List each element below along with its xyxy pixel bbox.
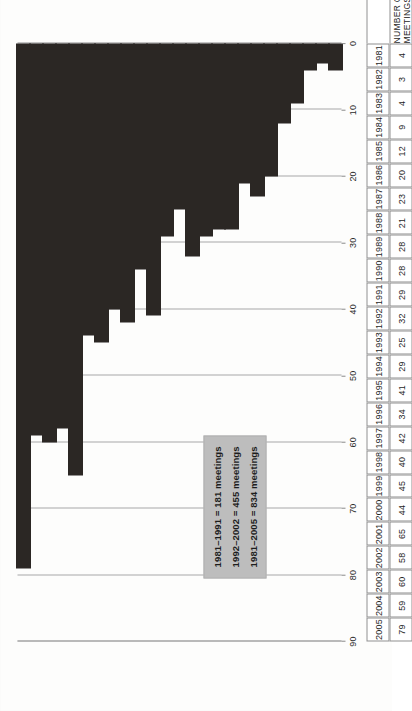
tick-mark (341, 375, 345, 376)
tick-mark (341, 508, 345, 509)
table-cell-year-1985: 1985 (366, 139, 389, 163)
table-cell-year-1997: 1997 (366, 426, 389, 450)
table-cell-year-1987: 1987 (366, 187, 389, 211)
table-cell-value-1989: 28 (389, 234, 412, 258)
bar-row (134, 43, 147, 641)
table-cell-value-2005: 79 (389, 617, 412, 641)
tick-text: 20 (347, 171, 357, 181)
bar-row (69, 43, 82, 641)
table-cell-value-1996: 34 (389, 402, 412, 426)
table-cell-value-1982: 3 (389, 67, 412, 91)
bar-row (276, 43, 289, 641)
tick-text: 30 (347, 237, 357, 247)
table-cell-value-1997: 42 (389, 426, 412, 450)
bar-row (108, 43, 121, 641)
table-cell-year-2000: 2000 (366, 498, 389, 522)
bar-series (17, 43, 341, 641)
table-cell-year-1994: 1994 (366, 354, 389, 378)
tick-mark (341, 574, 345, 575)
tick-mark (341, 441, 345, 442)
table-cell-year-1999: 1999 (366, 474, 389, 498)
table-cell-year-1992: 1992 (366, 306, 389, 330)
table-cell-value-2001: 65 (389, 521, 412, 545)
bar-row (302, 43, 315, 641)
table-cell-year-1982: 1982 (366, 67, 389, 91)
table-cell-value-2002: 58 (389, 545, 412, 569)
tick-text: 70 (347, 503, 357, 513)
bar-row (315, 43, 328, 641)
bar-row (173, 43, 186, 641)
tick-label-40: 40 (341, 304, 357, 314)
tick-label-60: 60 (341, 436, 357, 446)
legend-box: 1981–1991 = 181 meetings 1992–2002 = 455… (203, 435, 266, 578)
tick-label-10: 10 (341, 104, 357, 114)
table-cell-year-1993: 1993 (366, 330, 389, 354)
table-cell-year-1998: 1998 (366, 450, 389, 474)
tick-mark (341, 175, 345, 176)
tick-label-50: 50 (341, 370, 357, 380)
table-cell-value-1990: 28 (389, 258, 412, 282)
tick-text: 60 (347, 436, 357, 446)
table-cell-year-1990: 1990 (366, 258, 389, 282)
tick-text: 90 (347, 636, 357, 646)
bar-row (289, 43, 302, 641)
table-cell-value-1984: 9 (389, 115, 412, 139)
table-cell-year-2002: 2002 (366, 545, 389, 569)
plot-area: 1981–1991 = 181 meetings 1992–2002 = 455… (17, 43, 341, 641)
table-cell-year-2003: 2003 (366, 569, 389, 593)
tick-mark (341, 109, 345, 110)
bar-row (17, 43, 30, 641)
tick-mark (341, 43, 345, 44)
bar-row (185, 43, 198, 641)
table-cell-year-1996: 1996 (366, 402, 389, 426)
tick-text: 40 (347, 304, 357, 314)
table-cell-value-1991: 29 (389, 282, 412, 306)
table-cell-year-1983: 1983 (366, 91, 389, 115)
table-cell-value-1981: 4 (389, 43, 412, 67)
tick-mark (341, 641, 345, 642)
table-cell-value-1983: 4 (389, 91, 412, 115)
bar-row (82, 43, 95, 641)
table-cell-value-1986: 20 (389, 163, 412, 187)
table-cell-year-2001: 2001 (366, 521, 389, 545)
tick-mark (341, 308, 345, 309)
bar-row (121, 43, 134, 641)
legend-line-1: 1981–1991 = 181 meetings (211, 446, 222, 567)
bar-row (30, 43, 43, 641)
table-cell-value-1999: 45 (389, 474, 412, 498)
table-cell-value-1992: 32 (389, 306, 412, 330)
tick-label-80: 80 (341, 569, 357, 579)
tick-label-0: 0 (341, 40, 357, 45)
table-cell-year-1984: 1984 (366, 115, 389, 139)
table-cell-year-2005: 2005 (366, 617, 389, 641)
bar-row (328, 43, 341, 641)
table-cell-year-1988: 1988 (366, 210, 389, 234)
table-cell-value-1993: 25 (389, 330, 412, 354)
value-axis-ticks: 0102030405060708090 (341, 43, 365, 641)
tick-text: 80 (347, 569, 357, 579)
table-header-label: NUMBER OF MEETINGS (389, 0, 412, 43)
table-header-blank (366, 0, 389, 43)
table-cell-value-2003: 60 (389, 569, 412, 593)
bar-row (56, 43, 69, 641)
bar-row (43, 43, 56, 641)
table-cell-year-1986: 1986 (366, 163, 389, 187)
table-cell-value-2004: 59 (389, 593, 412, 617)
tick-mark (341, 242, 345, 243)
tick-label-90: 90 (341, 636, 357, 646)
tick-label-20: 20 (341, 171, 357, 181)
legend-line-3: 1981–2005 = 834 meetings (247, 446, 258, 567)
table-cell-value-1994: 29 (389, 354, 412, 378)
tick-text: 10 (347, 104, 357, 114)
table-cell-year-1989: 1989 (366, 234, 389, 258)
tick-label-30: 30 (341, 237, 357, 247)
table-cell-value-1987: 23 (389, 187, 412, 211)
table-cell-year-1995: 1995 (366, 378, 389, 402)
bar-2005 (16, 43, 31, 568)
bar-row (147, 43, 160, 641)
table-cell-value-1988: 21 (389, 210, 412, 234)
table-cell-year-2004: 2004 (366, 593, 389, 617)
tick-text: 50 (347, 370, 357, 380)
